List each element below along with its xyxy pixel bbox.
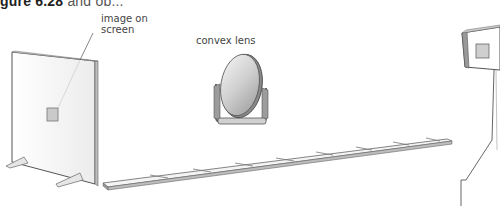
- image-patch: [47, 108, 58, 121]
- power-cable: [461, 70, 494, 206]
- lens-experiment-diagram: [0, 0, 500, 206]
- light-source-box: [461, 25, 500, 206]
- convex-lens: [214, 51, 268, 124]
- metre-rule: [103, 138, 452, 190]
- object-patch: [476, 44, 489, 58]
- screen: [6, 33, 98, 187]
- label-pointer-line: [80, 33, 93, 60]
